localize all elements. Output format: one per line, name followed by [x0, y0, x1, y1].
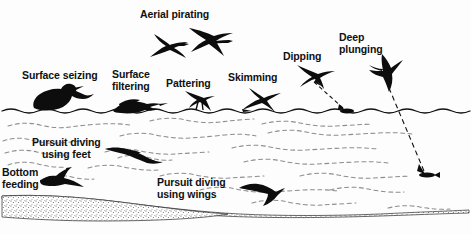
surface-prey-fish	[340, 109, 354, 114]
pursuit-diving-wings-bird	[238, 180, 286, 208]
dipping-bird	[296, 62, 336, 90]
label-surface-filtering: Surface filtering	[112, 69, 150, 92]
label-bottom-feeding: Bottom feeding	[2, 167, 39, 190]
label-aerial-pirating: Aerial pirating	[140, 9, 209, 21]
deep-plunging-trajectory	[389, 88, 425, 174]
label-surface-seizing: Surface seizing	[22, 70, 98, 82]
aerial-pirating-target	[185, 24, 235, 58]
deep-plunging-bird	[368, 52, 404, 94]
surface-seizing-bird	[28, 82, 96, 114]
label-dipping: Dipping	[283, 51, 321, 63]
skimming-bird	[240, 86, 282, 114]
pattering-bird	[182, 88, 216, 114]
surface-filtering-bird	[111, 94, 169, 116]
label-skimming: Skimming	[228, 72, 277, 84]
seabird-feeding-diagram: Aerial pirating Surface seizing Surface …	[0, 0, 471, 234]
water-and-seabed-layer	[0, 0, 471, 234]
label-pursuit-diving-wings: Pursuit diving using wings	[157, 177, 226, 200]
bottom-feeding-bird	[40, 167, 92, 193]
pursuit-diving-feet-bird	[103, 143, 165, 167]
underwater-texture	[3, 118, 450, 209]
label-pursuit-diving-feet: Pursuit diving using feet	[32, 137, 101, 160]
label-deep-plunging: Deep plunging	[339, 32, 383, 55]
label-pattering: Pattering	[166, 78, 211, 90]
